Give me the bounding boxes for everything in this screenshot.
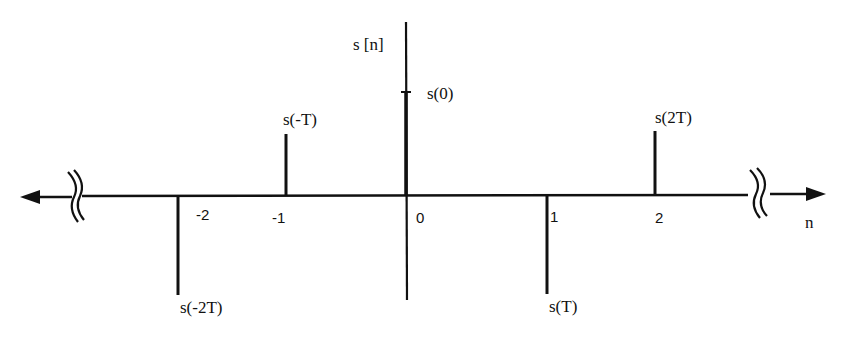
- sample-label-0: s(0): [427, 84, 453, 103]
- arrow-right-icon: [806, 187, 826, 201]
- diagram-svg: s [n] n -2 -1 0 1 2 s(-2T) s(-T) s(0) s(…: [0, 0, 843, 339]
- axis-break-right-icon: [750, 168, 767, 218]
- arrow-left-icon: [20, 190, 40, 204]
- tick-label-minus-2: -2: [196, 206, 209, 223]
- sample-label-1: s(T): [549, 297, 577, 316]
- tick-label-0: 0: [416, 209, 424, 226]
- diagram-canvas: s [n] n -2 -1 0 1 2 s(-2T) s(-T) s(0) s(…: [0, 0, 843, 339]
- tick-label-2: 2: [655, 209, 663, 226]
- horizontal-axis: [82, 195, 748, 196]
- tick-label-1: 1: [550, 208, 558, 225]
- tick-label-minus-1: -1: [272, 209, 285, 226]
- horizontal-axis-label: n: [805, 213, 814, 232]
- sample-label-2: s(2T): [655, 108, 692, 127]
- vertical-axis-label: s [n]: [353, 35, 384, 54]
- sample-label-minus-2: s(-2T): [180, 298, 222, 317]
- sample-label-minus-1: s(-T): [283, 110, 317, 129]
